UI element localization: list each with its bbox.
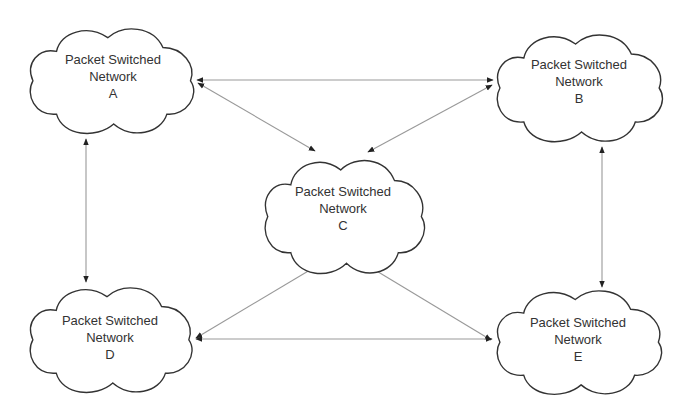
node-c-line1: Packet Switched (288, 183, 398, 200)
node-e-label: Packet Switched Network E (523, 314, 633, 365)
node-e-line1: Packet Switched (523, 314, 633, 331)
node-b-line3: B (524, 90, 634, 107)
node-e-line2: Network (523, 331, 633, 348)
node-a-line2: Network (58, 68, 168, 85)
network-diagram: Packet Switched Network A Packet Switche… (0, 0, 684, 414)
node-b-label: Packet Switched Network B (524, 56, 634, 107)
node-b-line2: Network (524, 73, 634, 90)
node-d-line1: Packet Switched (55, 312, 165, 329)
node-d-line3: D (55, 346, 165, 363)
edge-e-c (370, 267, 491, 340)
node-e-line3: E (523, 348, 633, 365)
edge-d-c (196, 267, 315, 338)
node-c-line2: Network (288, 200, 398, 217)
node-a-label: Packet Switched Network A (58, 51, 168, 102)
node-d-label: Packet Switched Network D (55, 312, 165, 363)
edge-b-c (368, 85, 492, 152)
node-a-line3: A (58, 85, 168, 102)
node-c-line3: C (288, 217, 398, 234)
node-a-line1: Packet Switched (58, 51, 168, 68)
node-d-line2: Network (55, 329, 165, 346)
node-b-line1: Packet Switched (524, 56, 634, 73)
node-c-label: Packet Switched Network C (288, 183, 398, 234)
edge-a-c (198, 83, 315, 151)
